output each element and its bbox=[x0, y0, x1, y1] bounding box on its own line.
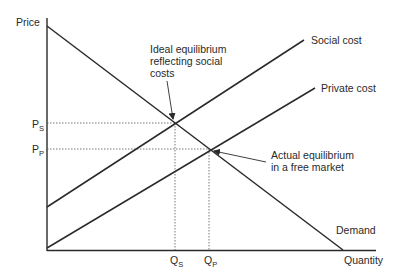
ideal-equilibrium-annotation: Ideal equilibrium reflecting social cost… bbox=[150, 43, 229, 79]
actual-arrow bbox=[214, 151, 266, 162]
actual-equilibrium-annotation: Actual equilibrium in a free market bbox=[271, 149, 357, 173]
social-cost-label: Social cost bbox=[311, 34, 362, 46]
x-axis-label: Quantity bbox=[344, 254, 384, 266]
externality-diagram: Price Quantity Social cost Private cost … bbox=[0, 0, 401, 280]
pp-label: PP bbox=[32, 143, 44, 158]
qp-label: QP bbox=[204, 254, 217, 269]
y-axis-label: Price bbox=[16, 16, 40, 28]
demand-label: Demand bbox=[336, 224, 376, 236]
ps-label: PS bbox=[32, 118, 44, 133]
private-cost-label: Private cost bbox=[321, 82, 376, 94]
ideal-arrow bbox=[167, 81, 173, 119]
qs-label: QS bbox=[170, 254, 183, 269]
